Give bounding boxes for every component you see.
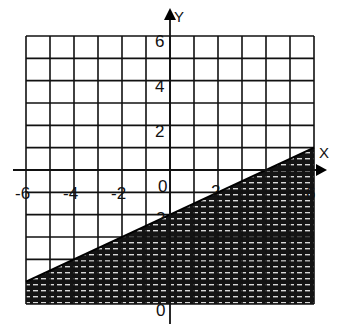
y-axis-label: Y — [174, 8, 184, 25]
x-axis-arrow-icon — [316, 164, 327, 176]
y-tick-neg6: 0 — [156, 301, 165, 320]
inequality-graph: X Y 6 4 2 2 0 -6 -4 -2 0 2 6 — [0, 0, 340, 332]
y-tick-2: 2 — [155, 122, 164, 141]
x-axis-label: X — [319, 144, 329, 161]
x-tick-2: 2 — [211, 182, 220, 201]
x-tick-0: 0 — [158, 177, 167, 196]
x-tick-neg6: -6 — [15, 184, 30, 203]
x-tick-6: 6 — [306, 184, 315, 203]
x-tick-neg2: -2 — [111, 184, 126, 203]
y-tick-4: 4 — [155, 77, 164, 96]
x-tick-neg4: -4 — [63, 184, 78, 203]
y-tick-neg2: 2 — [156, 209, 165, 228]
y-tick-6: 6 — [155, 32, 164, 51]
